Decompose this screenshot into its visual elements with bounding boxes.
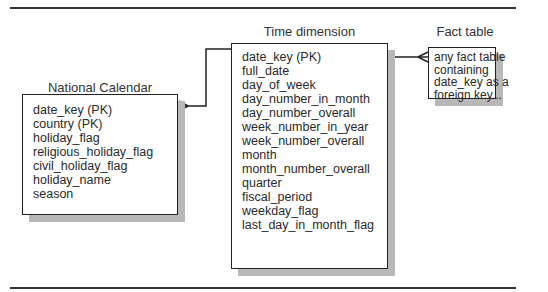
fact-table-entity-box: any fact table containing date_key as a … [428,47,496,99]
field-holiday-flag: holiday_flag [33,131,177,145]
field-month-number-overall: month_number_overall [242,162,387,176]
fact-line-1: any fact table [434,51,495,64]
field-fiscal-period: fiscal_period [242,190,387,204]
subdimension-relationship-line [178,49,231,111]
field-holiday-name: holiday_name [33,173,177,187]
time-dimension-entity-box: date_key (PK) full_date day_of_week day_… [231,43,388,269]
subdimension-entity-box: date_key (PK) country (PK) holiday_flag … [22,94,178,215]
field-month: month [242,148,387,162]
field-country: country (PK) [33,117,177,131]
field-religious-holiday-flag: religious_holiday_flag [33,145,177,159]
field-full-date: full_date [242,64,387,78]
field-quarter: quarter [242,176,387,190]
time-dimension-title: Time dimension [231,24,388,40]
field-civil-holiday-flag: civil_holiday_flag [33,159,177,173]
field-date-key: date_key (PK) [33,103,177,117]
fact-table-title: Fact table [420,24,510,40]
field-week-number-overall: week_number_overall [242,134,387,148]
field-season: season [33,187,177,201]
field-weekday-flag: weekday_flag [242,204,387,218]
fact-line-3: date_key as a [434,76,495,89]
fact-line-4: foreign key... [434,89,495,102]
field-last-day-in-month-flag: last_day_in_month_flag [242,218,387,232]
fact-relationship-line [388,52,428,62]
field-day-of-week: day_of_week [242,78,387,92]
field-day-number-overall: day_number_overall [242,106,387,120]
field-day-number-in-month: day_number_in_month [242,92,387,106]
field-week-number-in-year: week_number_in_year [242,120,387,134]
field-date-key: date_key (PK) [242,50,387,64]
